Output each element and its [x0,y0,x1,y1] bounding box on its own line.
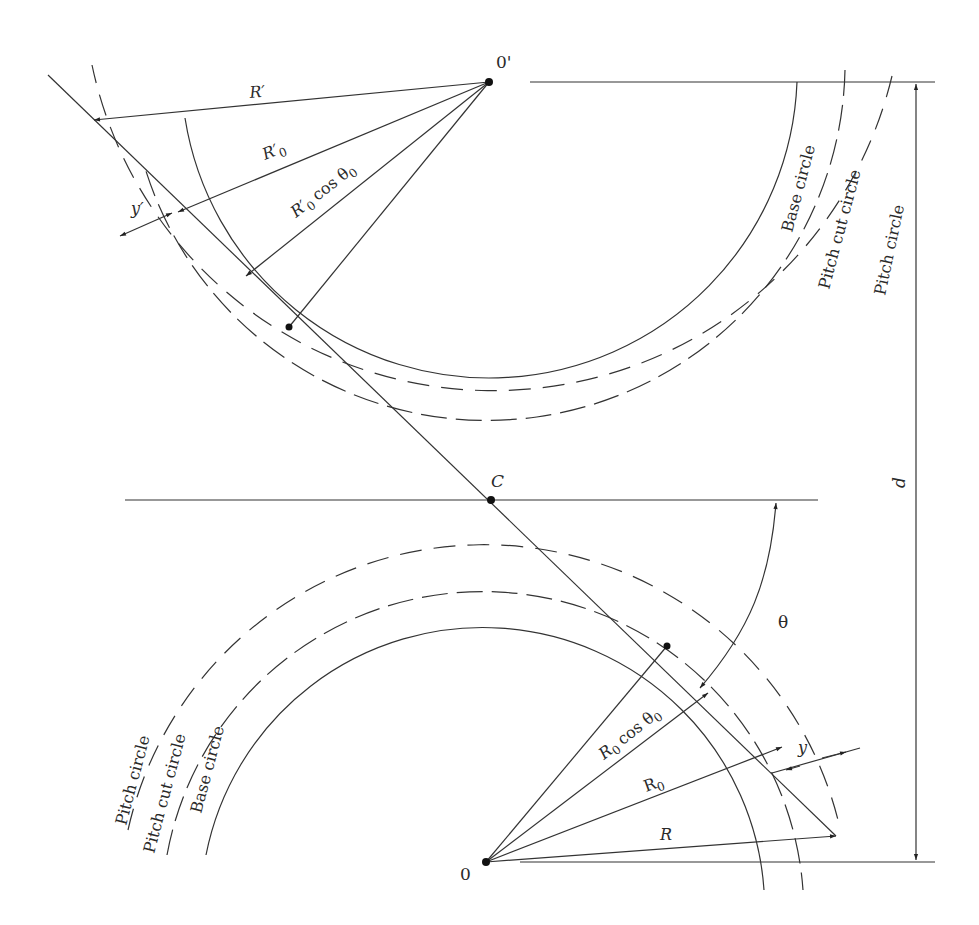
upper-base-radius-arrow [246,82,489,276]
upper-base-circle [185,82,797,378]
upper-pitch-circle-label: Pitch circle [870,203,908,297]
lower-tangent-point [664,643,671,650]
lower-pitch-radius-label: R0 [641,771,667,798]
upper-base-circle-label: Base circle [778,143,819,234]
upper-pitch-cut-circle [145,70,845,420]
lower-tangent-radius [486,646,667,862]
upper-pitch-circle [92,65,892,391]
lower-pitch-circle [128,545,838,830]
upper-pitch-cut-circle-label: Pitch cut circle [815,168,865,291]
lower-y-offset-line [772,748,860,773]
lower-center-label: 0 [460,864,471,884]
lower-base-radius-label: R0cos θ0 [594,703,666,766]
gear-geometry-diagram: 0' 0 C R′ R′0 R′0cos θ0 y′ Base circle P… [0,0,979,925]
pitch-point-c [487,496,495,504]
lower-pitch-radius-arrow [486,747,782,862]
upper-center-label: 0' [496,52,512,72]
theta-angle-label: θ [778,612,788,632]
lower-pitch-circle-label: Pitch circle [112,733,154,827]
lower-y-offset-label: y [797,738,808,757]
lower-outer-radius-label: R [659,825,672,844]
upper-outer-radius-arrow [94,82,489,120]
upper-outer-radius-label: R′ [248,82,267,102]
theta-angle-arc [700,503,776,688]
lower-base-radius-arrow [486,693,708,862]
lower-center-point [482,858,490,866]
upper-y-offset-label: y′ [130,199,144,218]
pitch-point-label: C [491,471,504,491]
center-distance-label: d [889,477,909,488]
upper-center-point [485,78,493,86]
lower-base-circle [206,628,764,890]
upper-tangent-point [286,324,293,331]
line-of-action [48,75,836,836]
upper-pitch-radius-label: R′0 [258,137,289,167]
lower-y-offset-arrow-2 [822,752,846,758]
